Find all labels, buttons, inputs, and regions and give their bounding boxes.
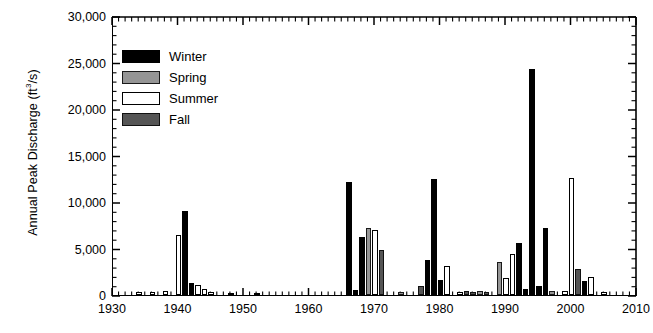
y-axis-tick-label: 0 [46,290,106,302]
bar-fall-1971 [379,250,385,295]
legend-swatch-spring-icon [122,71,160,84]
bar-fall-1985 [470,292,476,295]
y-axis-tick-labels: 05,00010,00015,00020,00025,00030,000 [44,0,106,333]
y-axis-title: Annual Peak Discharge (ft3/s) [24,13,39,293]
bar-summer-1938 [163,291,169,295]
legend-label-winter: Winter [169,50,207,63]
bar-fall-2001 [575,269,581,295]
bar-fall-1987 [484,292,490,295]
legend-item-winter: Winter [122,46,262,67]
bar-summer-1970 [372,230,378,295]
legend-swatch-fall-icon [122,113,160,126]
chart-figure: Annual Peak Discharge (ft3/s) 05,00010,0… [0,0,653,333]
bar-spring-1986 [477,291,483,295]
x-axis-tick-label: 2010 [601,302,653,316]
bar-summer-1990 [503,278,509,295]
bar-summer-1991 [510,254,516,295]
bar-summer-1983 [457,292,463,295]
bar-winter-1966 [346,182,352,295]
legend-label-summer: Summer [169,92,218,105]
bar-summer-2005 [601,292,607,295]
y-axis-tick-label: 10,000 [46,197,106,209]
bar-summer-1944 [202,289,208,295]
bar-spring-1969 [366,228,372,295]
y-axis-title-main: Annual Peak Discharge (ft [26,88,40,236]
x-axis-tick-label: 1950 [208,302,278,316]
bar-fall-1977 [418,286,424,295]
bar-spring-1989 [497,262,503,295]
x-axis-tick-label: 2000 [536,302,606,316]
y-axis-tick-label: 25,000 [46,58,106,70]
chart-legend: WinterSpringSummerFall [122,46,262,130]
x-axis-tick-label: 1940 [143,302,213,316]
x-axis-tick-label: 1960 [274,302,344,316]
bar-winter-1996 [543,228,549,295]
bar-winter-1995 [536,286,542,295]
x-axis-tick-label: 1970 [339,302,409,316]
legend-label-fall: Fall [169,113,190,126]
bar-summer-1936 [150,292,156,295]
bar-winter-1980 [438,280,444,295]
bar-summer-1940 [176,235,182,295]
y-axis-title-exponent: 3 [24,84,33,89]
legend-swatch-summer-icon [122,92,160,105]
legend-label-spring: Spring [169,71,207,84]
bar-winter-1978 [425,260,431,295]
legend-item-summer: Summer [122,88,262,109]
bar-winter-1967 [353,290,359,295]
x-axis-tick-label: 1930 [77,302,147,316]
legend-swatch-winter-icon [122,50,160,63]
y-axis-tick-label: 20,000 [46,104,106,116]
bar-summer-1934 [136,292,142,295]
bar-summer-1943 [195,285,201,295]
bar-winter-1979 [431,179,437,295]
bar-spring-1974 [398,292,404,295]
bar-summer-1945 [208,292,214,295]
bar-winter-1941 [182,211,188,295]
bar-spring-1997 [549,291,555,295]
bar-summer-2003 [588,277,594,295]
bar-winter-1968 [359,237,365,295]
bar-summer-1981 [444,266,450,295]
y-axis-title-tail: /s) [26,69,40,83]
legend-item-fall: Fall [122,109,262,130]
bar-summer-2000 [569,178,575,295]
y-axis-tick-label: 15,000 [46,151,106,163]
bar-summer-1948 [228,293,234,295]
y-axis-tick-label: 5,000 [46,244,106,256]
bar-summer-1999 [562,291,568,295]
bar-winter-2002 [582,281,588,295]
x-axis-tick-labels: 193019401950196019701980199020002010 [0,302,653,324]
bar-winter-1994 [529,69,535,295]
legend-item-spring: Spring [122,67,262,88]
bar-winter-1992 [516,243,522,295]
bar-winter-1942 [189,283,195,295]
bar-fall-1984 [464,291,470,295]
x-axis-tick-label: 1980 [405,302,475,316]
bar-summer-1952 [254,293,260,295]
x-axis-tick-label: 1990 [470,302,540,316]
bar-winter-1993 [523,289,529,295]
y-axis-tick-label: 30,000 [46,11,106,23]
